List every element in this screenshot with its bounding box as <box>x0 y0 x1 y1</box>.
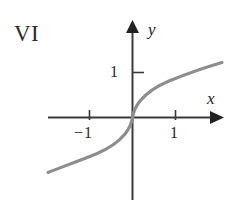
y-axis-label: y <box>148 21 156 38</box>
y-tick-label-1: 1 <box>110 64 118 80</box>
x-tick-label-1: 1 <box>170 125 178 141</box>
x-axis-arrowhead <box>210 111 224 124</box>
x-tick-label-neg1: −1 <box>74 125 93 141</box>
graph-figure: VI y x 1 −1 1 <box>0 0 244 209</box>
y-axis-arrowhead <box>126 20 139 33</box>
figure-roman-numeral-label: VI <box>14 22 39 45</box>
x-axis-label: x <box>207 90 215 107</box>
